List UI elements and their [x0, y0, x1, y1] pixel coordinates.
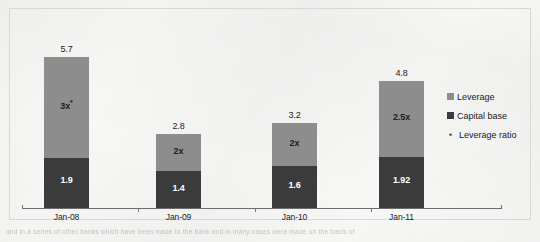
- legend-label-capital-base: Capital base: [457, 111, 507, 121]
- segment-label-leverage: 2x: [156, 146, 201, 156]
- segment-label-leverage: 2x: [272, 138, 317, 148]
- bar-jan-08[interactable]: 3x* 1.9 5.7 Jan-08: [44, 57, 89, 208]
- segment-label-capital-base: 1.6: [272, 180, 317, 190]
- x-axis-label-jan-08: Jan-08: [28, 212, 105, 222]
- legend-item-capital-base[interactable]: Capital base: [447, 106, 540, 125]
- bar-jan-10[interactable]: 2x 1.6 3.2 Jan-10: [272, 123, 317, 208]
- bar-jan-11[interactable]: 2.5x 1.92 4.8 Jan-11: [379, 81, 424, 208]
- footnote-marker: *: [70, 99, 73, 106]
- bar-segment-leverage[interactable]: 3x*: [44, 57, 89, 158]
- legend-label-leverage-ratio: Leverage ratio: [457, 130, 517, 140]
- legend-label-leverage: Leverage: [457, 92, 495, 102]
- bar-segment-leverage[interactable]: 2x: [156, 134, 201, 171]
- bar-segment-capital-base[interactable]: 1.6: [272, 166, 317, 208]
- scan-bleed-text: and in a series of other banks which hav…: [0, 222, 540, 242]
- stacked-bar-chart: 3x* 1.9 5.7 Jan-08 2x 1.4 2.8 Jan-09 2x: [10, 9, 530, 209]
- x-axis-label-jan-11: Jan-11: [363, 212, 440, 222]
- legend-item-leverage-ratio-note: * Leverage ratio: [447, 125, 540, 144]
- segment-label-capital-base: 1.9: [44, 175, 89, 185]
- scanned-page: 3x* 1.9 5.7 Jan-08 2x 1.4 2.8 Jan-09 2x: [0, 0, 540, 242]
- bar-total-label: 2.8: [156, 121, 201, 131]
- x-axis-end-cap: [501, 205, 502, 209]
- bar-jan-09[interactable]: 2x 1.4 2.8 Jan-09: [156, 134, 201, 208]
- bar-total-label: 3.2: [272, 110, 317, 120]
- segment-label-capital-base: 1.92: [379, 175, 424, 185]
- segment-label-leverage: 3x*: [44, 101, 89, 111]
- bar-segment-capital-base[interactable]: 1.92: [379, 157, 424, 208]
- segment-label-text: 3x: [60, 101, 70, 111]
- x-axis-label-jan-09: Jan-09: [140, 212, 217, 222]
- segment-label-capital-base: 1.4: [156, 183, 201, 193]
- bar-total-label: 5.7: [44, 44, 89, 54]
- x-axis-label-jan-10: Jan-10: [256, 212, 333, 222]
- bar-segment-capital-base[interactable]: 1.9: [44, 158, 89, 208]
- bar-segment-leverage[interactable]: 2x: [272, 123, 317, 166]
- segment-label-leverage: 2.5x: [379, 112, 424, 122]
- x-axis-line: [22, 208, 502, 209]
- bar-total-label: 4.8: [379, 68, 424, 78]
- x-axis-start-cap: [22, 205, 23, 209]
- x-axis-tick: [138, 209, 139, 212]
- legend-item-leverage[interactable]: Leverage: [447, 87, 540, 106]
- bar-segment-capital-base[interactable]: 1.4: [156, 171, 201, 208]
- scan-bleed-line: and in a series of other banks which hav…: [6, 228, 534, 235]
- bar-segment-leverage[interactable]: 2.5x: [379, 81, 424, 157]
- legend-swatch-icon: [447, 93, 454, 100]
- asterisk-icon: *: [447, 131, 454, 141]
- chart-legend: Leverage Capital base * Leverage ratio: [447, 87, 540, 144]
- legend-swatch-icon: [447, 112, 454, 119]
